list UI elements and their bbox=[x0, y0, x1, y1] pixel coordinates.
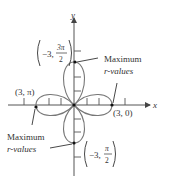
point-bottom bbox=[72, 141, 75, 144]
svg-text:r-values: r-values bbox=[104, 66, 134, 76]
svg-text:−3,: −3, bbox=[89, 150, 101, 160]
svg-text:π: π bbox=[105, 144, 109, 153]
point-left bbox=[34, 105, 37, 108]
svg-text:2: 2 bbox=[105, 156, 109, 165]
paren-left bbox=[38, 40, 41, 66]
pointer-left bbox=[32, 109, 35, 125]
pointer-right bbox=[113, 83, 117, 103]
annotation-upper-right: Maximum r-values bbox=[104, 54, 142, 76]
label-left-point: (3, π) bbox=[15, 87, 35, 97]
paren-right bbox=[113, 141, 116, 167]
x-axis-label: x bbox=[152, 100, 157, 110]
svg-text:2: 2 bbox=[59, 55, 63, 64]
annotation-lower-left: Maximum r-values bbox=[7, 132, 45, 154]
label-bottom-point: −3, π 2 bbox=[85, 141, 116, 167]
point-right bbox=[110, 103, 113, 106]
svg-text:Maximum: Maximum bbox=[7, 132, 45, 142]
origin-point bbox=[72, 103, 75, 106]
label-top-point: −3, 3π 2 bbox=[38, 40, 72, 66]
y-axis-label: y bbox=[70, 10, 75, 20]
rose-curve-diagram: y x −3, 3π 2 (3, π) (3, 0) −3, π 2 Maxim… bbox=[0, 0, 169, 185]
pointer-top bbox=[77, 58, 98, 62]
label-right-point: (3, 0) bbox=[113, 108, 133, 118]
svg-text:r-values: r-values bbox=[7, 144, 37, 154]
svg-text:3π: 3π bbox=[56, 43, 65, 52]
pointer-bottom bbox=[50, 144, 72, 148]
svg-text:−3,: −3, bbox=[42, 49, 54, 59]
svg-text:Maximum: Maximum bbox=[104, 54, 142, 64]
paren-left bbox=[85, 141, 88, 167]
point-top bbox=[73, 60, 76, 63]
